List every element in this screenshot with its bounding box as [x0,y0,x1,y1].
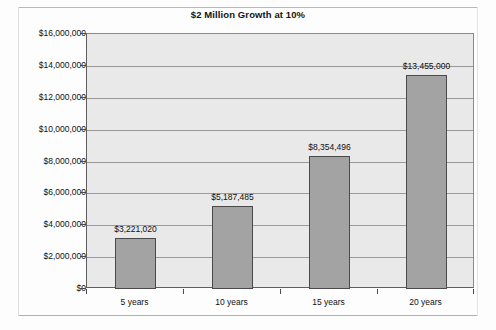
page-frame-top-rule [18,7,478,8]
bar-value-label: $13,455,000 [403,61,450,71]
x-axis-tick-mark [183,289,184,294]
bar [115,238,156,289]
y-axis-tick-label: $2,000,000 [8,251,86,261]
x-axis-tick-mark [280,289,281,294]
chart-title: $2 Million Growth at 10% [0,9,496,20]
x-axis-tick-label: 15 years [312,297,345,307]
chart-page: $2 Million Growth at 10% $0$2,000,000$4,… [0,0,496,330]
y-axis-tick-label: $0 [8,283,86,293]
x-axis-tick-mark [86,289,87,294]
y-axis-tick-label: $8,000,000 [8,156,86,166]
x-axis-tick-label: 20 years [409,297,442,307]
bar [212,206,253,289]
y-axis-tick-label: $16,000,000 [8,28,86,38]
y-axis-tick-label: $10,000,000 [8,124,86,134]
page-frame-bottom-rule [18,315,478,316]
x-axis-tick-mark [377,289,378,294]
x-axis: 5 years10 years15 years20 years [86,289,474,315]
bar [309,156,350,289]
x-axis-tick-label: 10 years [215,297,248,307]
y-axis-tick-label: $6,000,000 [8,187,86,197]
y-axis: $0$2,000,000$4,000,000$6,000,000$8,000,0… [0,33,86,289]
x-axis-tick-label: 5 years [121,297,149,307]
bar-value-label: $5,187,485 [211,192,254,202]
bar [406,75,447,289]
page-frame-right-rule [477,7,478,316]
x-axis-tick-mark [473,289,474,294]
y-axis-tick-label: $4,000,000 [8,219,86,229]
y-axis-tick-label: $14,000,000 [8,60,86,70]
bar-value-label: $8,354,496 [308,142,351,152]
plot-area: $3,221,020$5,187,485$8,354,496$13,455,00… [86,33,474,288]
y-axis-tick-label: $12,000,000 [8,92,86,102]
bar-value-label: $3,221,020 [114,224,157,234]
